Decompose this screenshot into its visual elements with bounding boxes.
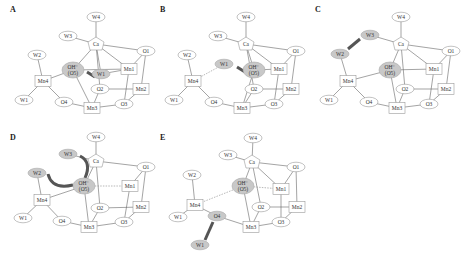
node-w3: W3 [219, 150, 237, 160]
node-wx: W1 [191, 240, 209, 250]
node-label-mn4: Mn4 [190, 202, 201, 208]
node-mn2: Mn2 [289, 202, 305, 213]
node-label-mn2: Mn2 [136, 204, 147, 210]
node-w3: W3 [209, 31, 227, 41]
node-o1: O1 [137, 162, 155, 172]
node-label-mn3: Mn3 [237, 105, 248, 111]
node-label-w4: W4 [92, 134, 100, 140]
node-label-w4: W4 [92, 14, 100, 20]
bond-ca-o2 [96, 161, 100, 208]
node-ca: Ca [88, 154, 104, 167]
node-label-w4: W4 [242, 14, 250, 20]
node-label-w3: W3 [366, 32, 374, 38]
node-label-mn1: Mn1 [125, 183, 136, 189]
node-label-w1: W1 [19, 215, 27, 221]
node-mn4: Mn4 [34, 195, 50, 206]
node-mn1: Mn1 [122, 181, 138, 192]
node-label-o2: O2 [97, 86, 104, 92]
node-mn1: Mn1 [273, 184, 289, 195]
o5-label: (O5) [238, 186, 249, 193]
node-label-w1: W1 [20, 97, 28, 103]
panel-label-b: B [160, 5, 166, 14]
node-label-ca: Ca [398, 41, 405, 47]
node-mn3: Mn3 [81, 222, 97, 233]
node-label-o2: O2 [251, 86, 258, 92]
node-label-o3: O3 [271, 101, 278, 107]
node-mn2: Mn2 [438, 84, 454, 95]
panel-label-e: E [160, 133, 165, 142]
node-wc: W1 [92, 69, 110, 79]
node-mn3: Mn3 [234, 103, 250, 114]
node-o1: O1 [287, 162, 305, 172]
node-mn1: Mn1 [121, 64, 137, 75]
o5-label: (O5) [79, 186, 90, 193]
node-label-w1: W1 [174, 214, 182, 220]
node-w1: W1 [169, 212, 187, 222]
node-label-wc: W1 [220, 61, 228, 67]
panel-b: W4W3CaO1W2Mn1OH⁻(O5)Mn4O2Mn2W1O4O3Mn3W1B [160, 5, 305, 114]
node-label-o3: O3 [121, 219, 128, 225]
node-mn3: Mn3 [243, 222, 259, 233]
node-w1: W1 [320, 95, 338, 105]
node-label-o2: O2 [97, 205, 104, 211]
node-label-mn1: Mn1 [429, 66, 440, 72]
node-o4: O4 [53, 216, 71, 226]
node-ca: Ca [244, 155, 260, 168]
node-oh: OH⁻(O5) [379, 62, 401, 78]
rotate-arrow-w2 [48, 174, 73, 186]
node-w3: W3 [59, 31, 77, 41]
bond-ca-o2 [401, 44, 405, 89]
node-ca: Ca [393, 37, 409, 50]
node-w2: W2 [183, 170, 201, 180]
node-o2: O2 [245, 84, 263, 94]
node-label-mn4: Mn4 [343, 78, 354, 84]
node-label-mn4: Mn4 [38, 78, 49, 84]
node-o4: O4 [360, 97, 378, 107]
node-o4: O4 [205, 97, 223, 107]
node-label-mn4: Mn4 [37, 197, 48, 203]
node-label-w2: W2 [33, 52, 41, 58]
node-label-o1: O1 [448, 48, 455, 54]
node-w1: W1 [165, 95, 183, 105]
node-label-o4: O4 [366, 99, 373, 105]
bond-o1-mn2 [141, 167, 146, 207]
node-o2: O2 [91, 84, 109, 94]
node-ca: Ca [88, 37, 104, 50]
node-label-w4: W4 [397, 14, 405, 20]
node-o4: O4 [208, 211, 226, 221]
node-o2: O2 [396, 84, 414, 94]
node-label-w1: W1 [325, 97, 333, 103]
node-oh: OH⁻(O5) [62, 62, 84, 78]
node-label-o1: O1 [143, 164, 150, 170]
node-label-w2: W2 [336, 51, 344, 57]
node-label-mn3: Mn3 [246, 224, 257, 230]
node-label-wc: W1 [97, 71, 105, 77]
node-o3: O3 [265, 99, 283, 109]
node-label-o1: O1 [293, 164, 300, 170]
rotate-arrow-w3 [80, 156, 88, 178]
node-label-o2: O2 [402, 86, 409, 92]
node-mn3: Mn3 [84, 103, 100, 114]
node-w4: W4 [244, 133, 262, 143]
node-mn2: Mn2 [283, 84, 299, 95]
node-oh: OH⁻(O5) [243, 62, 265, 78]
panel-a: W4W3CaO1W2Mn1OH⁻(O5)Mn4O2Mn2W1O4O3Mn3W1A [10, 5, 155, 114]
node-w2: W2 [28, 168, 46, 178]
node-label-w2: W2 [33, 170, 41, 176]
node-label-w4: W4 [249, 135, 257, 141]
node-label-o4: O4 [59, 218, 66, 224]
node-label-w1: W1 [170, 97, 178, 103]
node-label-mn2: Mn2 [136, 86, 147, 92]
node-mn2: Mn2 [133, 84, 149, 95]
panel-label-c: C [315, 5, 321, 14]
node-w4: W4 [87, 12, 105, 22]
panel-label-d: D [10, 133, 16, 142]
node-label-wx: W1 [196, 242, 204, 248]
node-w3: W3 [59, 149, 77, 159]
node-w3: W3 [361, 30, 379, 40]
bond-o1-mn2 [296, 167, 297, 207]
node-label-mn2: Mn2 [441, 86, 452, 92]
swap-arrow [205, 222, 213, 240]
swap-arrow [348, 39, 360, 49]
node-mn4: Mn4 [340, 76, 356, 87]
